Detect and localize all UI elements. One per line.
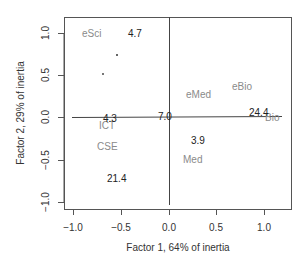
point-label-4-3: 4.3 [103,113,117,124]
x-tick-label: 0.0 [162,222,176,233]
x-axis-title: Factor 1, 64% of inertia [126,242,230,253]
y-axis: 1.0 0.5 0.0 −0.5 −1.0 Factor 2, 29% of i… [15,26,64,212]
point-label-3-9: 3.9 [191,135,205,146]
y-tick-label: 0.5 [40,68,51,82]
point-marker [102,73,104,75]
x-axis: −1.0 −0.5 0.0 0.5 1.0 Factor 1, 64% of i… [63,209,271,253]
point-label-21-4: 21.4 [107,173,127,184]
y-tick-label: 1.0 [40,26,51,40]
x-tick-label: −0.5 [111,222,131,233]
point-label-cse: CSE [97,141,118,152]
row-category-labels: eSci eMed eBio ICT Bio CSE Med [82,28,280,165]
correspondence-analysis-plot: 1.0 0.5 0.0 −0.5 −1.0 Factor 2, 29% of i… [0,0,306,264]
x-tick-label: 0.5 [209,222,223,233]
x-tick-label: 1.0 [257,222,271,233]
point-label-esci: eSci [82,28,101,39]
x-tick-label: −1.0 [63,222,83,233]
y-tick-label: 0.0 [40,110,51,124]
unlabeled-points [102,54,118,75]
y-axis-title: Factor 2, 29% of inertia [15,61,26,165]
point-label-24-4: 24.4 [249,107,269,118]
point-label-med: Med [183,154,202,165]
point-label-4-7: 4.7 [128,28,142,39]
point-label-7-0: 7.0 [158,111,172,122]
point-label-ebio: eBio [232,81,252,92]
y-tick-label: −0.5 [40,150,51,170]
point-label-emed: eMed [186,89,211,100]
point-marker [116,54,118,56]
y-tick-label: −1.0 [40,192,51,212]
